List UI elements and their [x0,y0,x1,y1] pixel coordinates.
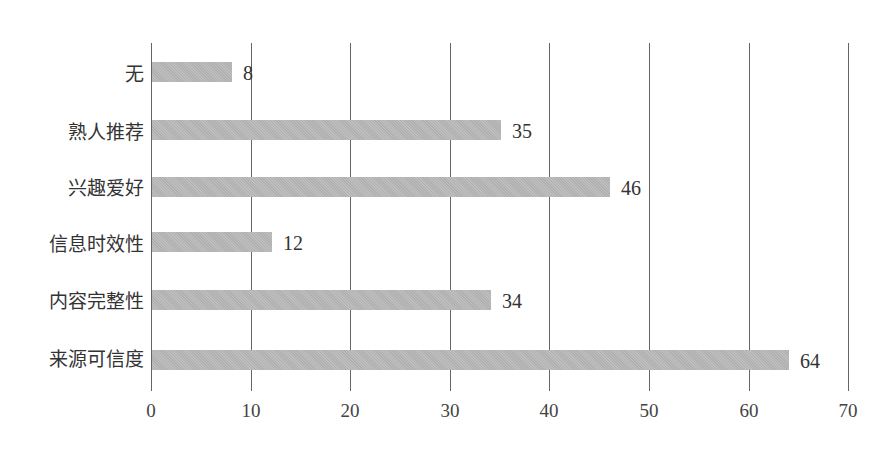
gridline [251,43,252,391]
horizontal-bar-chart: 无 熟人推荐 兴趣爱好 信息时效性 内容完整性 来源可信度 8 35 46 12… [0,0,889,453]
gridline [649,43,650,391]
x-tick-label: 50 [640,400,659,422]
value-label: 8 [243,62,253,85]
x-tick-label: 70 [839,400,858,422]
category-label: 来源可信度 [49,344,144,371]
bar [152,177,610,197]
gridline [549,43,550,391]
x-tick-label: 30 [441,400,460,422]
gridline [749,43,750,391]
bar [152,120,501,140]
gridline [450,43,451,391]
gridline [848,43,849,391]
value-label: 35 [512,120,532,143]
gridline [151,43,152,391]
x-tick-label: 60 [740,400,759,422]
value-label: 34 [502,290,522,313]
value-label: 64 [800,350,820,373]
gridline [350,43,351,391]
value-label: 46 [621,177,641,200]
value-label: 12 [283,232,303,255]
bar [152,350,789,370]
category-label: 信息时效性 [49,229,144,256]
category-label: 内容完整性 [49,286,144,313]
category-label: 熟人推荐 [68,117,144,144]
x-tick-label: 20 [341,400,360,422]
x-tick-label: 10 [242,400,261,422]
bar [152,232,272,252]
category-label: 兴趣爱好 [68,173,144,200]
x-tick-label: 40 [540,400,559,422]
bar [152,62,232,82]
category-label: 无 [125,59,144,86]
bar [152,290,491,310]
x-tick-label: 0 [146,400,156,422]
